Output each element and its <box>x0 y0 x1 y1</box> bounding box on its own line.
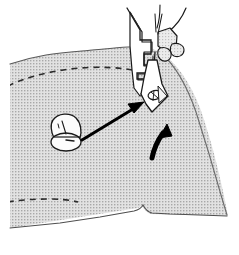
needle-clamp <box>158 28 184 61</box>
sewing-diagram-svg <box>0 0 239 255</box>
figure-container: Fabric positioned under the presser foot… <box>0 0 239 255</box>
marker-knob-base <box>51 133 81 151</box>
marker-knob <box>51 114 81 151</box>
